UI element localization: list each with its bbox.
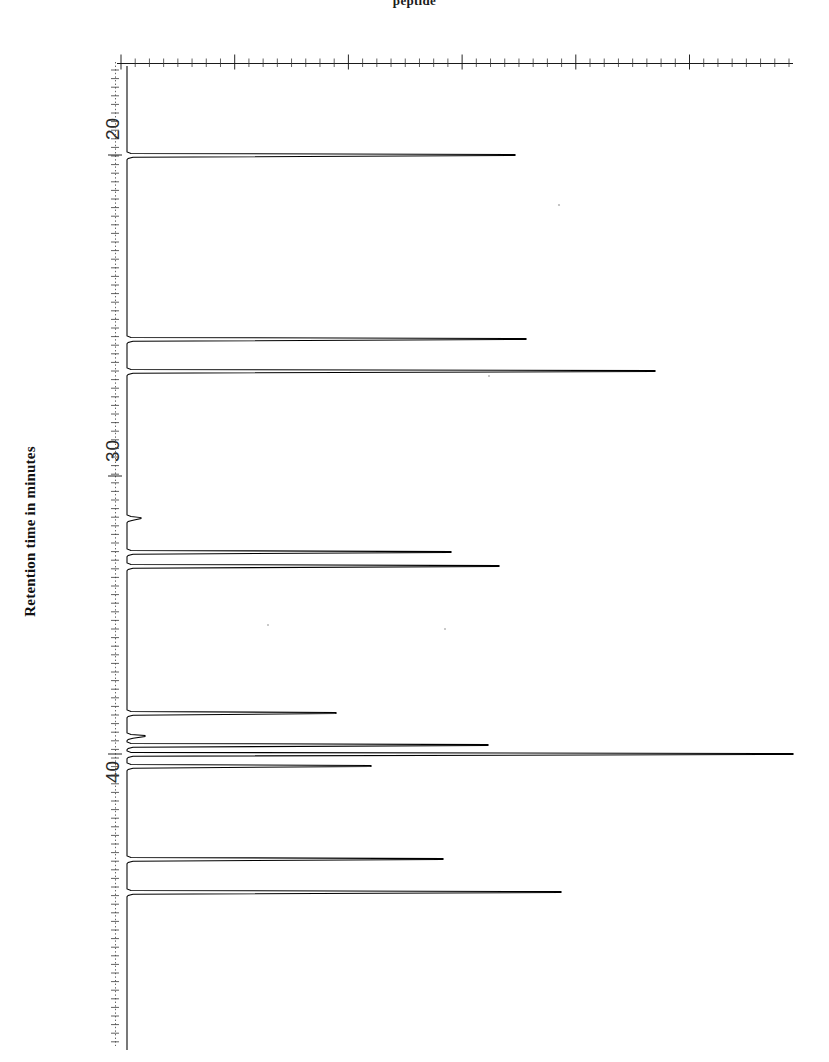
top-axis-rule [117,55,793,70]
paper-speck [558,204,560,206]
chromatogram-plot [0,0,829,1062]
paper-speck [444,628,446,630]
paper-speck [267,624,269,626]
chromatogram-trace [127,66,793,1050]
paper-speck [488,375,490,377]
chromatogram-page: peptide Retention time in minutes 20 30 … [0,0,829,1062]
